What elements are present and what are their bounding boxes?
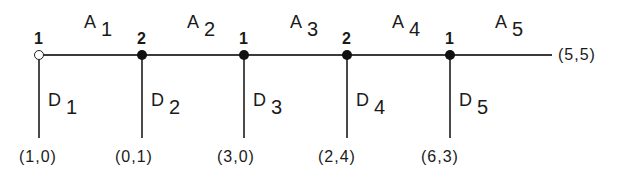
- arc-label-3: A3: [290, 12, 318, 31]
- payoff-2: (0,1): [115, 148, 153, 166]
- arc-label-5: A5: [495, 12, 523, 31]
- player-label-4: 2: [342, 30, 351, 48]
- payoff-5: (6,3): [421, 148, 459, 166]
- decision-node-5: [445, 50, 455, 60]
- payoff-3: (3,0): [217, 148, 255, 166]
- decision-node-1: [34, 50, 44, 60]
- branch-line-4: [346, 56, 348, 138]
- branch-label-5: D5: [459, 90, 488, 109]
- branch-label-3: D3: [253, 90, 282, 109]
- branch-label-4: D4: [356, 90, 385, 109]
- branch-line-3: [243, 56, 245, 138]
- branch-label-1: D1: [48, 90, 77, 109]
- branch-line-5: [449, 56, 451, 138]
- arc-label-4: A4: [392, 12, 420, 31]
- player-label-3: 1: [239, 30, 248, 48]
- decision-node-4: [342, 50, 352, 60]
- main-path: [40, 54, 552, 56]
- arc-label-1: A1: [84, 12, 112, 31]
- branch-line-2: [141, 56, 143, 138]
- player-label-1: 1: [34, 30, 43, 48]
- decision-node-3: [239, 50, 249, 60]
- player-label-2: 2: [137, 30, 146, 48]
- branch-label-2: D2: [151, 90, 180, 109]
- terminal-payoff: (5,5): [558, 46, 596, 64]
- payoff-4: (2,4): [318, 148, 356, 166]
- decision-node-2: [137, 50, 147, 60]
- arc-label-2: A2: [187, 12, 215, 31]
- player-label-5: 1: [445, 30, 454, 48]
- payoff-1: (1,0): [19, 148, 57, 166]
- branch-line-1: [38, 56, 40, 138]
